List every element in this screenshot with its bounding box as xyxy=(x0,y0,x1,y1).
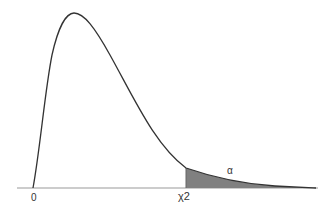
density-curve xyxy=(33,13,316,188)
alpha-label: α xyxy=(227,165,233,176)
chi-square-critical-label: χ2 xyxy=(178,190,190,202)
origin-tick-label: 0 xyxy=(31,192,37,203)
shaded-tail-region xyxy=(186,168,316,188)
chi-square-density-chart xyxy=(0,0,331,215)
